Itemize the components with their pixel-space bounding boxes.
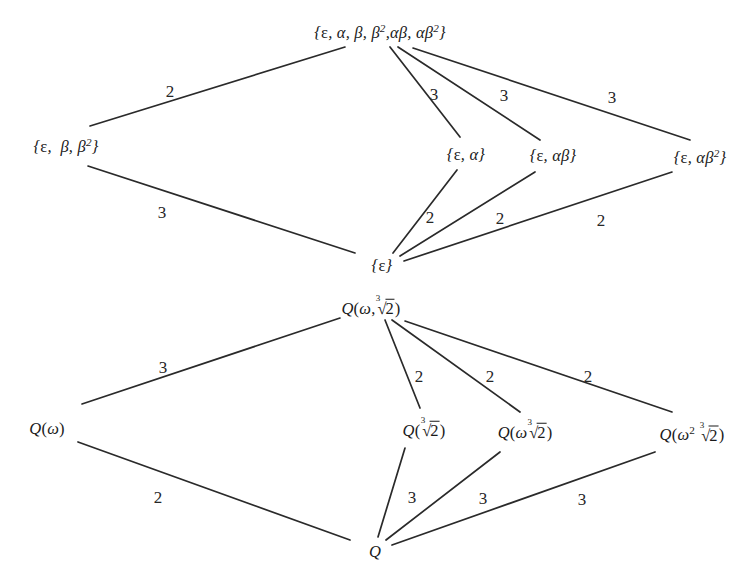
diagram-canvas: {ε, α, β, β2,αβ, αβ2} {ε, β, β2} {ε, α} …: [0, 0, 749, 588]
edge-label-f-left-bottom: 2: [154, 489, 163, 506]
edge-f-mid3-bottom: [392, 452, 655, 545]
edge-label-mid3-bottom: 2: [597, 212, 606, 229]
edge-label-left-bottom: 3: [158, 204, 167, 221]
node-group-mid3: {ε, αβ2}: [674, 148, 727, 167]
edge-top-mid3: [413, 48, 690, 140]
node-field-mid2: Q(ω3√2): [498, 423, 553, 442]
edge-top-mid2: [398, 47, 540, 140]
node-group-mid1: {ε, α}: [447, 147, 485, 164]
edge-label-f-top-mid3: 2: [584, 368, 593, 385]
lattice-edges: [0, 0, 749, 588]
edge-mid2-bottom: [400, 172, 535, 256]
edge-f-left-bottom: [78, 442, 350, 540]
edge-label-top-left: 2: [166, 83, 175, 100]
node-group-left: {ε, β, β2}: [33, 137, 98, 156]
node-field-top: Q(ω,3√2): [341, 299, 400, 318]
edge-top-left: [90, 47, 345, 126]
node-group-mid2: {ε, αβ}: [530, 148, 577, 165]
edge-label-top-mid2: 3: [500, 87, 509, 104]
edge-f-top-mid1: [385, 320, 420, 408]
node-field-mid3: Q(ω2 3√2): [660, 425, 725, 444]
edge-label-top-mid1: 3: [430, 86, 439, 103]
edge-label-mid2-bottom: 2: [496, 210, 505, 227]
edge-left-bottom: [88, 166, 355, 253]
edge-f-top-mid2: [392, 320, 520, 412]
edge-label-mid1-bottom: 2: [426, 209, 435, 226]
edge-label-f-top-left: 3: [159, 359, 168, 376]
edge-label-f-top-mid2: 2: [486, 368, 495, 385]
edge-f-top-left: [82, 318, 340, 404]
node-group-top: {ε, α, β, β2,αβ, αβ2}: [314, 23, 446, 42]
edge-label-f-mid2-bottom: 3: [479, 490, 488, 507]
node-field-left: Q(ω): [29, 421, 64, 438]
edge-f-top-mid3: [405, 321, 672, 412]
node-group-bottom: {ε}: [372, 258, 393, 275]
edge-label-f-mid1-bottom: 3: [408, 489, 417, 506]
edge-label-f-top-mid1: 2: [415, 368, 424, 385]
edge-label-top-mid3: 3: [608, 89, 617, 106]
edge-label-f-mid3-bottom: 3: [578, 491, 587, 508]
node-field-bottom: Q: [369, 544, 381, 561]
node-field-mid1: Q(3√2): [403, 421, 446, 440]
edge-f-mid1-bottom: [378, 448, 405, 537]
